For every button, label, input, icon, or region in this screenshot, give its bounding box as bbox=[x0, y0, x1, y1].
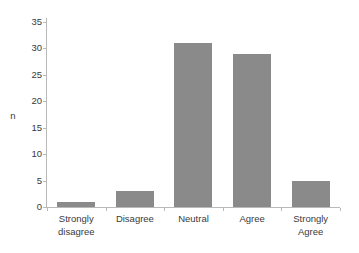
plot-area bbox=[47, 18, 340, 207]
y-axis-tick-label: 0 bbox=[20, 202, 42, 212]
bar bbox=[233, 54, 271, 207]
bar bbox=[174, 43, 212, 207]
x-axis-label-line: Agree bbox=[219, 213, 285, 226]
x-axis-line bbox=[46, 207, 340, 208]
x-axis-tick-mark bbox=[223, 208, 224, 211]
x-axis-tick-mark bbox=[106, 208, 107, 211]
bar-slot bbox=[106, 18, 165, 207]
y-axis-tick-label: 5 bbox=[20, 176, 42, 186]
bar-chart: n 35302520151050 StronglydisagreeDisagre… bbox=[0, 0, 359, 253]
x-axis-label: Neutral bbox=[161, 213, 227, 226]
y-axis-tick-label: 20 bbox=[20, 96, 42, 106]
y-axis-tick-label: 25 bbox=[20, 70, 42, 80]
x-axis-label-line: disagree bbox=[43, 226, 109, 239]
bar-slot bbox=[47, 18, 106, 207]
bar bbox=[57, 202, 95, 207]
bar bbox=[292, 181, 330, 207]
x-axis-tick-mark bbox=[164, 208, 165, 211]
y-axis-tick-label: 30 bbox=[20, 43, 42, 53]
x-axis-label: Agree bbox=[219, 213, 285, 226]
y-axis-title: n bbox=[6, 111, 20, 121]
y-axis-tick-label: 10 bbox=[20, 149, 42, 159]
x-axis-label: Stronglydisagree bbox=[43, 213, 109, 238]
x-axis-label-line: Disagree bbox=[102, 213, 168, 226]
x-axis-tick-mark bbox=[340, 208, 341, 211]
x-axis-label-line: Agree bbox=[278, 226, 344, 239]
bar-slot bbox=[281, 18, 340, 207]
bar-slot bbox=[164, 18, 223, 207]
bar bbox=[116, 191, 154, 207]
bar-slot bbox=[223, 18, 282, 207]
x-axis-tick-mark bbox=[281, 208, 282, 211]
x-axis-label-line: Strongly bbox=[278, 213, 344, 226]
x-axis-label-line: Neutral bbox=[161, 213, 227, 226]
y-axis-tick-label: 15 bbox=[20, 123, 42, 133]
x-axis-label-line: Strongly bbox=[43, 213, 109, 226]
y-axis-tick-label: 35 bbox=[20, 17, 42, 27]
x-axis-label: StronglyAgree bbox=[278, 213, 344, 238]
x-axis-tick-mark bbox=[47, 208, 48, 211]
x-axis-label: Disagree bbox=[102, 213, 168, 226]
